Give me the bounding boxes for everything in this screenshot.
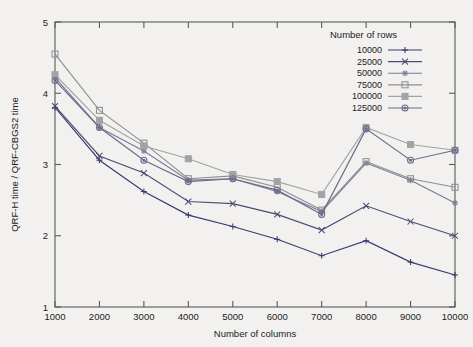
legend-item-50000[interactable]: 50000 — [357, 68, 422, 78]
series-line-75000 — [55, 54, 455, 210]
legend-label-10000: 10000 — [357, 45, 382, 55]
series-125000 — [52, 77, 458, 217]
legend-label-50000: 50000 — [357, 68, 382, 78]
series-line-50000 — [55, 78, 455, 212]
series-line-125000 — [55, 80, 455, 214]
x-tick-label: 9000 — [400, 311, 421, 322]
legend-title: Number of rows — [330, 29, 397, 40]
data-point — [232, 178, 234, 180]
data-point — [98, 126, 100, 128]
x-tick-label: 6000 — [267, 311, 288, 322]
series-25000 — [52, 103, 458, 239]
x-tick-label: 10000 — [442, 311, 468, 322]
x-tick-label: 3000 — [133, 311, 154, 322]
y-tick-label: 2 — [43, 230, 48, 241]
chart-container: 1234510002000300040005000600070008000900… — [0, 0, 473, 347]
data-point — [54, 79, 56, 81]
data-point — [185, 156, 191, 162]
x-tick-label: 7000 — [311, 311, 332, 322]
data-point — [365, 128, 367, 130]
data-point — [143, 159, 145, 161]
y-tick-label: 5 — [43, 17, 48, 28]
series-10000 — [52, 105, 458, 278]
data-point — [274, 179, 280, 185]
data-point — [321, 213, 323, 215]
data-point — [52, 72, 58, 78]
data-point — [408, 142, 414, 148]
series-75000 — [52, 51, 458, 213]
x-tick-label: 2000 — [89, 311, 110, 322]
data-point — [187, 181, 189, 183]
plot-frame — [55, 22, 455, 307]
line-chart: 1234510002000300040005000600070008000900… — [0, 0, 473, 347]
legend-label-75000: 75000 — [357, 80, 382, 90]
x-tick-label: 8000 — [356, 311, 377, 322]
x-tick-label: 1000 — [44, 311, 65, 322]
series-50000 — [52, 75, 458, 215]
data-point — [141, 143, 147, 149]
series-line-100000 — [55, 75, 455, 195]
legend-label-25000: 25000 — [357, 57, 382, 67]
legend-label-125000: 125000 — [352, 103, 382, 113]
x-axis-title: Number of columns — [214, 328, 297, 339]
series-line-10000 — [55, 108, 455, 275]
legend-item-25000[interactable]: 25000 — [357, 57, 422, 67]
data-point — [319, 191, 325, 197]
data-point — [402, 93, 408, 99]
legend-item-100000[interactable]: 100000 — [352, 91, 422, 101]
legend-label-100000: 100000 — [352, 91, 382, 101]
data-point — [454, 149, 456, 151]
legend-item-125000[interactable]: 125000 — [352, 103, 422, 113]
data-point — [410, 159, 412, 161]
data-point — [96, 117, 102, 123]
legend-item-10000[interactable]: 10000 — [357, 45, 422, 55]
x-tick-label: 4000 — [178, 311, 199, 322]
y-axis-title: QRF-H time / QRF-CBGS2 time — [9, 97, 20, 232]
y-tick-label: 3 — [43, 159, 48, 170]
x-tick-label: 5000 — [222, 311, 243, 322]
legend-item-75000[interactable]: 75000 — [357, 80, 422, 90]
data-point — [276, 189, 278, 191]
y-tick-label: 4 — [43, 88, 48, 99]
data-point — [404, 107, 406, 109]
